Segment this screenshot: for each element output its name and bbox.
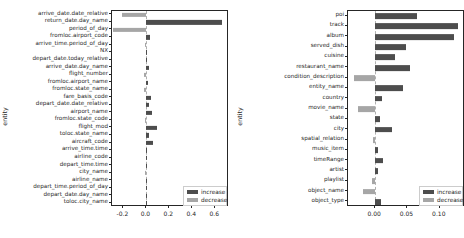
bar	[375, 44, 405, 50]
bar	[146, 50, 147, 54]
y-axis-tick-label: country	[323, 95, 344, 101]
y-axis-tick-mark	[109, 149, 111, 150]
legend-right: increase decrease	[419, 186, 463, 206]
y-axis-tick-mark	[109, 111, 111, 112]
x-axis-tick-mark	[406, 206, 407, 208]
x-axis-tick-mark	[122, 206, 123, 208]
y-axis-tick-label: cuisine	[324, 54, 344, 60]
bar	[375, 24, 458, 30]
y-axis-tick-mark	[109, 21, 111, 22]
bar	[146, 58, 147, 62]
legend-label-decrease: decrease	[437, 197, 463, 203]
y-axis-tick-mark	[345, 149, 347, 150]
y-axis-tick-label: arrive_date.day_name	[46, 64, 108, 70]
y-axis-tick-mark	[345, 56, 347, 57]
bar	[375, 34, 454, 40]
y-axis-tick-mark	[109, 202, 111, 203]
y-axis-tick-mark	[109, 142, 111, 143]
y-axis-tick-label: fromloc.state_name	[52, 86, 108, 92]
y-axis-tick-mark	[345, 169, 347, 170]
bar	[146, 20, 221, 24]
y-axis-tick-label: fromloc.airport_code	[50, 34, 108, 40]
y-axis-tick-mark	[109, 96, 111, 97]
y-axis-tick-mark	[345, 128, 347, 129]
bar	[375, 147, 378, 153]
bar	[375, 116, 380, 122]
bar	[146, 156, 147, 160]
bar	[375, 55, 395, 61]
bar	[354, 75, 375, 81]
y-axis-tick-mark	[345, 118, 347, 119]
y-axis-tick-label: track	[330, 23, 344, 29]
y-axis-tick-label: depart_date.today_relative	[33, 56, 108, 62]
chart-panel-left: entity arrive_date.date_relativereturn_d…	[0, 0, 232, 238]
bar	[146, 163, 147, 167]
y-axis-tick-mark	[345, 200, 347, 201]
y-axis-tick-mark	[109, 81, 111, 82]
legend-swatch-increase-icon	[423, 190, 434, 195]
bar	[146, 201, 147, 205]
zero-reference-line-right	[375, 11, 376, 205]
y-axis-tick-mark	[109, 164, 111, 165]
y-axis-tick-label: airline_code	[74, 154, 108, 160]
legend-label-increase: increase	[201, 189, 225, 195]
x-axis-tick-label: 0.6	[209, 210, 219, 217]
y-axis-tick-label: toloc.city_name	[64, 199, 108, 205]
y-axis-tick-mark	[109, 179, 111, 180]
bar	[145, 118, 146, 122]
legend-row-increase: increase	[423, 189, 459, 195]
legend-label-decrease: decrease	[201, 197, 227, 203]
x-axis-tick-label: 0.05	[400, 210, 413, 217]
legend-row-decrease: decrease	[423, 197, 459, 203]
chart-panel-right: entity poitrackalbumserved_dishcuisinere…	[232, 0, 463, 238]
y-axis-tick-mark	[345, 46, 347, 47]
y-axis-tick-mark	[109, 28, 111, 29]
y-axis-tick-label: artist	[329, 167, 344, 173]
y-axis-tick-label: fromloc.state_code	[55, 117, 108, 123]
y-axis-tick-label: music_item	[312, 146, 344, 152]
legend-swatch-decrease-icon	[187, 198, 198, 203]
legend-swatch-decrease-icon	[423, 198, 434, 203]
bar	[146, 126, 157, 130]
bar	[144, 88, 147, 92]
y-axis-tick-label: depart_date.date_relative	[36, 101, 108, 107]
y-axis-tick-mark	[345, 35, 347, 36]
x-axis-tick-label: 0.0	[141, 210, 151, 217]
y-axis-tick-label: arrive_time.time	[62, 147, 108, 153]
y-axis-tick-label: movie_name	[308, 105, 344, 111]
x-axis-tick-label: 0.00	[367, 210, 380, 217]
bar	[375, 158, 383, 164]
x-axis-tick-label: 0.10	[432, 210, 445, 217]
bar	[375, 65, 410, 71]
y-axis-tick-label: flight_mod	[78, 124, 108, 130]
y-axis-tick-label: period_of_day	[69, 26, 108, 32]
y-axis-tick-mark	[109, 187, 111, 188]
y-axis-tick-label: timeRange	[314, 157, 344, 163]
plot-area-left	[111, 10, 228, 206]
y-axis-tick-labels-right: poitrackalbumserved_dishcuisinerestauran…	[232, 0, 344, 238]
y-axis-tick-label: aircraft_code	[72, 139, 108, 145]
bar	[363, 189, 375, 195]
y-axis-tick-label: toloc.state_name	[60, 132, 108, 138]
y-axis-tick-mark	[345, 139, 347, 140]
y-axis-tick-label: NX	[100, 49, 108, 55]
y-axis-tick-mark	[109, 194, 111, 195]
bar	[375, 96, 381, 102]
bar	[375, 85, 403, 91]
bar	[375, 127, 392, 133]
y-axis-tick-label: spatial_relation	[301, 136, 344, 142]
y-axis-tick-mark	[345, 15, 347, 16]
y-axis-tick-mark	[109, 66, 111, 67]
plot-area-right	[347, 10, 464, 206]
y-axis-tick-mark	[345, 66, 347, 67]
x-axis-tick-mark	[214, 206, 215, 208]
y-axis-tick-label: restaurant_name	[296, 64, 344, 70]
y-axis-tick-mark	[345, 25, 347, 26]
y-axis-tick-mark	[345, 108, 347, 109]
bar	[146, 103, 148, 107]
bar	[358, 106, 375, 112]
y-axis-tick-mark	[345, 87, 347, 88]
bar	[146, 96, 151, 100]
bar	[372, 178, 375, 184]
